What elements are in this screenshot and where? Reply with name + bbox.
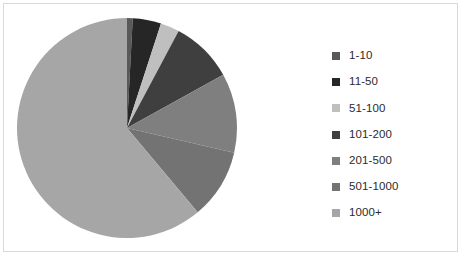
legend-swatch-icon bbox=[332, 52, 340, 60]
legend-item[interactable]: 1-10 bbox=[326, 44, 446, 68]
legend-item[interactable]: 201-500 bbox=[326, 149, 446, 173]
pie-slice-group bbox=[17, 18, 237, 238]
chart-frame: 1-10 11-50 51-100 101-200 201-500 501-10… bbox=[3, 3, 458, 252]
pie-chart[interactable] bbox=[16, 17, 238, 239]
legend-item[interactable]: 1000+ bbox=[326, 201, 446, 225]
legend-item-label: 1-10 bbox=[349, 50, 372, 62]
legend-item-label: 501-1000 bbox=[349, 181, 398, 193]
legend-item-label: 11-50 bbox=[349, 76, 378, 88]
legend-swatch-icon bbox=[332, 209, 340, 217]
legend-swatch-icon bbox=[332, 157, 340, 165]
chart-legend: 1-10 11-50 51-100 101-200 201-500 501-10… bbox=[326, 44, 446, 227]
legend-item-label: 101-200 bbox=[349, 129, 392, 141]
legend-swatch-icon bbox=[332, 78, 340, 86]
legend-item[interactable]: 501-1000 bbox=[326, 175, 446, 199]
legend-item[interactable]: 101-200 bbox=[326, 123, 446, 147]
legend-item[interactable]: 51-100 bbox=[326, 96, 446, 120]
legend-item-label: 1000+ bbox=[349, 207, 382, 219]
legend-item-label: 201-500 bbox=[349, 155, 392, 167]
legend-item[interactable]: 11-50 bbox=[326, 70, 446, 94]
pie-chart-plot-area bbox=[4, 4, 304, 253]
legend-swatch-icon bbox=[332, 131, 340, 139]
legend-swatch-icon bbox=[332, 104, 340, 112]
legend-swatch-icon bbox=[332, 183, 340, 191]
legend-item-label: 51-100 bbox=[349, 103, 385, 115]
